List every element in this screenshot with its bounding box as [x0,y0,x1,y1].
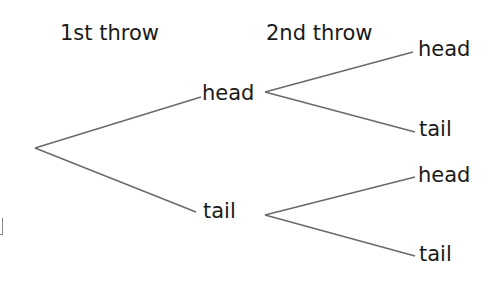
node-first-tail: tail [203,201,236,222]
node-tail-tail: tail [419,244,452,265]
branch-head-to-tail [265,92,415,132]
branch-head-to-head [265,52,413,92]
branch-root-to-head [35,97,201,148]
header-second-throw: 2nd throw [266,23,372,44]
branch-root-to-tail [35,148,196,212]
node-head-head: head [418,39,470,60]
node-head-tail: tail [419,119,452,140]
header-first-throw: 1st throw [60,23,159,44]
branch-tail-to-head [265,177,415,215]
edge-artifact-mark [0,218,3,235]
node-first-head: head [202,83,254,104]
node-tail-head: head [418,165,470,186]
branch-tail-to-tail [265,215,415,256]
